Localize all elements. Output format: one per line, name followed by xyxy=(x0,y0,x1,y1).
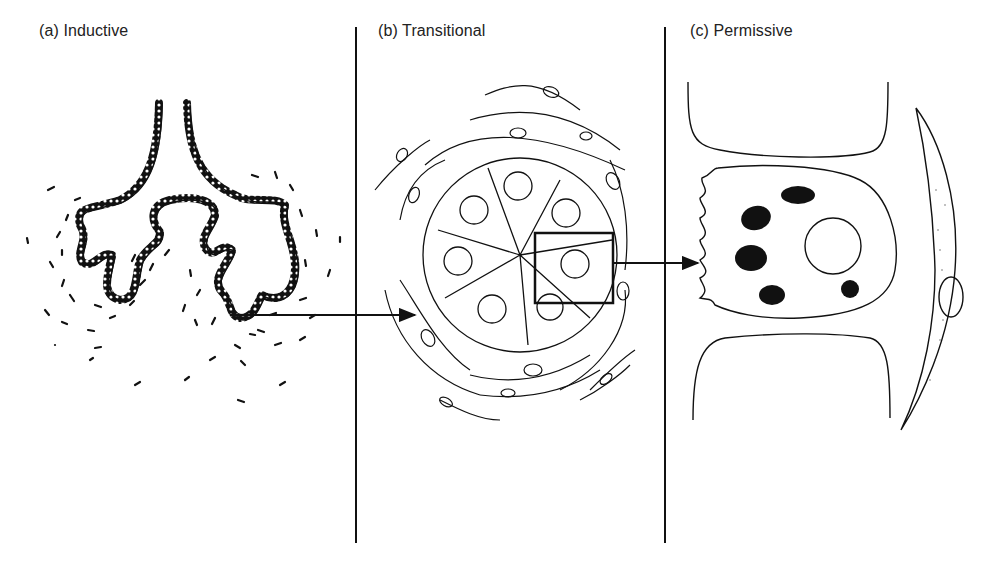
adjacent-fibroblast xyxy=(901,108,956,430)
transitional-tubule xyxy=(423,158,617,352)
zoom-region-box xyxy=(535,233,613,303)
nucleus xyxy=(805,218,861,274)
permissive-cell-view xyxy=(688,82,963,430)
upper-neighbour-cell xyxy=(688,82,888,157)
inductive-epithelial-bud xyxy=(79,103,298,320)
lower-neighbour-cell xyxy=(693,334,890,420)
diagram-canvas xyxy=(0,0,998,567)
fibroblast-nucleus xyxy=(939,277,963,317)
secretory-granules xyxy=(735,186,859,305)
fibroblast-layer xyxy=(375,85,635,420)
